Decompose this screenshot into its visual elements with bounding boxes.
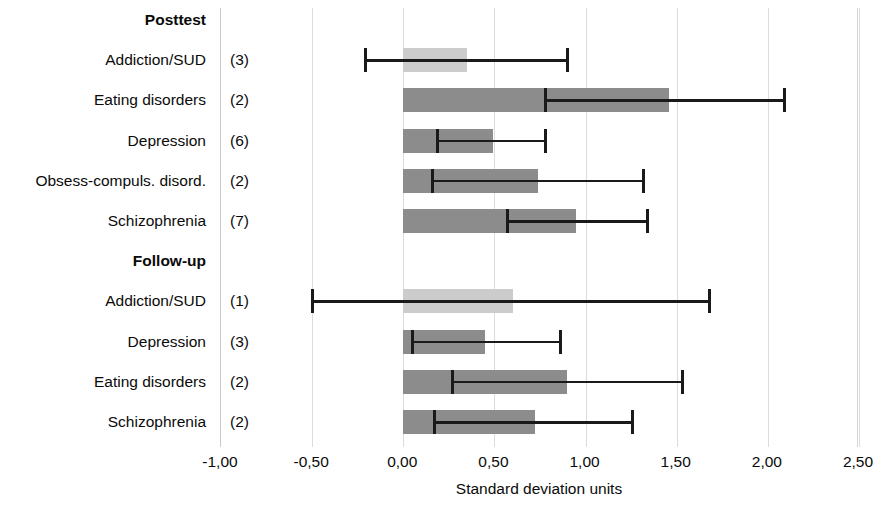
error-bar-line — [434, 421, 633, 424]
error-bar-cap-low — [364, 48, 367, 72]
row-label: Eating disorders — [94, 90, 206, 110]
error-bar-cap-low — [436, 129, 439, 153]
series-row — [221, 360, 857, 404]
gridline — [859, 8, 860, 447]
row-label: Schizophrenia — [108, 211, 206, 231]
series-row — [221, 119, 857, 163]
bar-chart: PosttestAddiction/SUDEating disordersDep… — [0, 0, 876, 509]
error-bar-cap-low — [311, 289, 314, 313]
error-bar-cap-low — [431, 169, 434, 193]
row-label: Eating disorders — [94, 372, 206, 392]
row-label: Depression — [128, 131, 206, 151]
x-tick-label: 2,50 — [843, 452, 873, 472]
error-bar-cap-high — [681, 370, 684, 394]
error-bar-line — [365, 59, 567, 62]
series-row — [221, 159, 857, 203]
error-bar-cap-high — [646, 209, 649, 233]
series-row — [221, 78, 857, 122]
error-bar-cap-low — [451, 370, 454, 394]
error-bar-cap-high — [559, 330, 562, 354]
error-bar-cap-high — [566, 48, 569, 72]
error-bar-cap-low — [411, 330, 414, 354]
x-tick-label: -0,50 — [293, 452, 328, 472]
series-row — [221, 199, 857, 243]
plot-area — [220, 8, 858, 447]
error-bar-cap-low — [544, 88, 547, 112]
x-tick-label: 1,50 — [661, 452, 691, 472]
error-bar-cap-high — [631, 410, 634, 434]
error-bar-cap-low — [506, 209, 509, 233]
error-bar-cap-high — [783, 88, 786, 112]
x-tick-label: 0,00 — [387, 452, 417, 472]
error-bar-line — [507, 220, 647, 223]
error-bar-cap-high — [642, 169, 645, 193]
error-bar-line — [312, 300, 709, 303]
error-bar-line — [453, 381, 683, 384]
x-tick-label: -1,00 — [202, 452, 237, 472]
series-row — [221, 400, 857, 444]
x-tick-label: 1,00 — [569, 452, 599, 472]
error-bar-line — [545, 99, 784, 102]
row-label: Depression — [128, 332, 206, 352]
x-tick-label: 2,00 — [752, 452, 782, 472]
x-axis-tick-labels: -1,00-0,500,000,501,001,502,002,50 — [0, 452, 876, 476]
row-label-column: PosttestAddiction/SUDEating disordersDep… — [0, 0, 206, 447]
x-tick-label: 0,50 — [478, 452, 508, 472]
error-bar-cap-low — [433, 410, 436, 434]
row-label: Addiction/SUD — [105, 50, 206, 70]
series-row — [221, 279, 857, 323]
row-label: Addiction/SUD — [105, 291, 206, 311]
group-header-label: Follow-up — [133, 251, 206, 271]
error-bar-line — [432, 180, 643, 183]
error-bar-cap-high — [544, 129, 547, 153]
error-bar-cap-high — [708, 289, 711, 313]
group-header-label: Posttest — [145, 10, 206, 30]
error-bar-line — [412, 341, 560, 344]
series-row — [221, 38, 857, 82]
error-bar-line — [438, 140, 546, 143]
row-label: Obsess-compuls. disord. — [35, 171, 206, 191]
row-label: Schizophrenia — [108, 412, 206, 432]
x-axis-title: Standard deviation units — [220, 480, 858, 498]
series-row — [221, 320, 857, 364]
